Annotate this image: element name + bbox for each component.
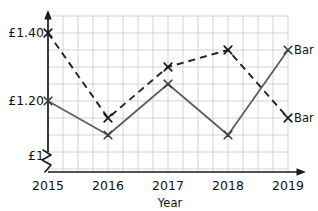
x-tick-label-2019: 2019 (272, 178, 304, 193)
x-tick-label-2016: 2016 (92, 178, 124, 193)
x-tick-label-2015: 2015 (32, 178, 64, 193)
grid-lines (48, 16, 288, 172)
series-label-bar-2: Bar 2 (294, 43, 318, 57)
series-label-bar-1: Bar 1 (294, 111, 318, 125)
x-tick-label-2018: 2018 (212, 178, 244, 193)
chart-canvas: £1.40 £1.20 £1 2015 2016 2017 2018 2019 … (0, 0, 318, 211)
y-tick-label-100: £1 (28, 148, 44, 163)
y-tick-label-140: £1.40 (8, 25, 44, 40)
y-tick-label-120: £1.20 (8, 93, 44, 108)
line-chart: £1.40 £1.20 £1 2015 2016 2017 2018 2019 … (0, 0, 318, 211)
x-tick-label-2017: 2017 (152, 178, 184, 193)
x-axis-title: Year (157, 196, 183, 210)
